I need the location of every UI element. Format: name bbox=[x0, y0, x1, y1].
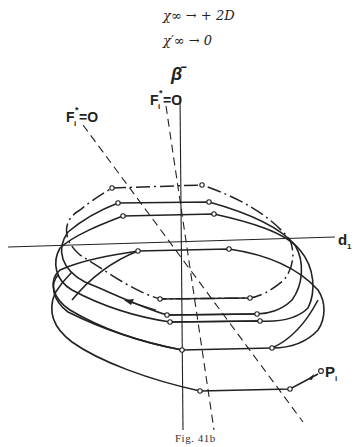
inner-left-arc bbox=[72, 251, 138, 300]
right-fi-label: F * i =O bbox=[150, 88, 182, 111]
svg-text:i: i bbox=[158, 102, 160, 111]
beta-axis-label: β̄ bbox=[170, 64, 187, 84]
ring-outer bbox=[52, 272, 318, 391]
d1-axis-label: d 1 bbox=[338, 231, 352, 251]
direction-arrow-shaft bbox=[130, 302, 156, 310]
svg-text:P: P bbox=[325, 363, 335, 380]
segment-a bbox=[160, 298, 250, 299]
segment-c bbox=[170, 321, 260, 322]
figure-caption: Fig. 41b bbox=[175, 432, 216, 444]
svg-text:d: d bbox=[338, 231, 347, 248]
svg-text:=O: =O bbox=[163, 92, 182, 108]
outer-right-arc bbox=[272, 300, 318, 348]
beta-axis bbox=[180, 96, 183, 430]
trajectory-diagram: β̄ F * i =O F * i =O d 1 P i bbox=[0, 0, 359, 447]
direction-arrow-icon bbox=[124, 299, 134, 305]
svg-text:1: 1 bbox=[347, 242, 352, 251]
svg-text:i: i bbox=[74, 119, 76, 128]
point-pi-marker bbox=[319, 369, 324, 374]
left-fi-zero-line bbox=[83, 125, 303, 422]
svg-text:i: i bbox=[335, 374, 337, 383]
left-fi-label: F * i =O bbox=[66, 105, 98, 128]
pi-label: P i bbox=[325, 363, 337, 383]
svg-text:=O: =O bbox=[79, 109, 98, 125]
ring-3 bbox=[56, 214, 313, 322]
right-fi-zero-line bbox=[166, 106, 214, 430]
segment-b bbox=[167, 314, 257, 315]
